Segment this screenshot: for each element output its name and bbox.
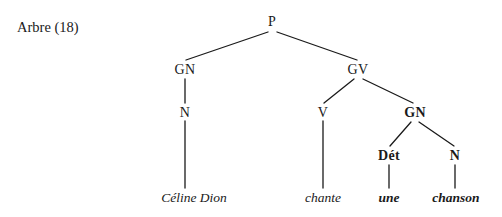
branch-gv-to-gn-object (363, 79, 413, 103)
terminal-subject: Céline Dion (161, 191, 227, 205)
node-gn-object: GN (404, 106, 426, 120)
branch-p-to-gn-subject (186, 32, 268, 60)
branch-gn-object-to-det (390, 122, 411, 146)
node-gn-subject: GN (175, 63, 196, 77)
terminal-determiner: une (378, 191, 399, 205)
node-n-subject: N (180, 106, 190, 120)
terminal-verb: chante (305, 191, 341, 205)
node-det: Dét (378, 149, 400, 163)
terminal-object-noun: chanson (432, 191, 479, 205)
branch-p-to-gv (277, 32, 357, 60)
branch-gv-to-v (324, 79, 354, 103)
branch-gn-object-to-n-object (419, 122, 454, 146)
tree-branches (0, 0, 502, 217)
node-v: V (318, 106, 328, 120)
node-n-object: N (450, 149, 460, 163)
node-p: P (268, 15, 276, 29)
syntax-tree-figure: Arbre (18) P GN GV N V GN Dét N Céline D… (0, 0, 502, 217)
node-gv: GV (348, 63, 369, 77)
